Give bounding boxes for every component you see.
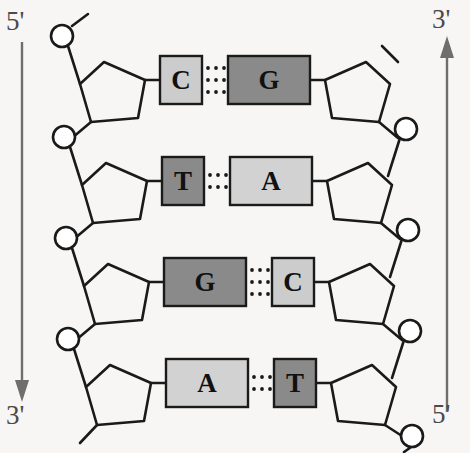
base-letter-right-2: A: [261, 166, 281, 196]
left-3prime-free-end: [80, 425, 97, 443]
right-3prime-free-end: [382, 46, 398, 62]
right-strand-backbone: [310, 46, 414, 452]
label-5-prime-left: 5': [6, 6, 24, 37]
phosphate-left-3: [55, 227, 77, 249]
left-phosphate-group: [51, 25, 79, 350]
base-letter-left-4: A: [197, 368, 217, 398]
phosphate-right-4: [401, 425, 423, 447]
label-3-prime-right: 3': [432, 4, 450, 35]
base-letter-right-1: G: [258, 65, 279, 95]
base-letter-right-3: C: [283, 267, 303, 297]
label-5-prime-right: 5': [432, 399, 450, 430]
label-3-prime-left: 3': [6, 400, 24, 431]
right-phosphate-group: [395, 118, 423, 447]
base-letter-right-4: T: [286, 368, 304, 398]
phosphate-left-4: [57, 328, 79, 350]
left-sugar-4: [86, 365, 151, 425]
base-letter-left-3: G: [194, 267, 215, 297]
left-strand-direction-arrow: [15, 42, 29, 402]
base-pair-row-2: T A: [162, 157, 312, 205]
phosphate-right-3: [399, 320, 421, 342]
left-5prime-free-end: [72, 14, 88, 26]
phosphate-right-2: [397, 219, 419, 241]
right-strand-direction-arrow: [440, 36, 454, 412]
left-strand-backbone: [68, 14, 166, 443]
right-sugar-4: [331, 365, 396, 425]
right-sugar-3: [329, 264, 394, 324]
right-sugar-2: [327, 163, 392, 223]
phosphate-left-1: [51, 25, 73, 47]
base-letter-left-1: C: [171, 65, 191, 95]
left-sugar-2: [82, 163, 147, 223]
right-sugar-1: [325, 62, 390, 122]
dna-diagram: C G T A: [0, 0, 470, 453]
phosphate-right-1: [395, 118, 417, 140]
left-sugar-1: [80, 62, 145, 122]
base-pair-row-4: A T: [166, 359, 316, 407]
base-pair-row-3: G C: [164, 258, 314, 306]
base-letter-left-2: T: [174, 166, 192, 196]
left-sugar-3: [84, 264, 149, 324]
dna-structure-svg: C G T A: [0, 0, 470, 453]
phosphate-left-2: [53, 126, 75, 148]
base-pair-row-1: C G: [160, 56, 310, 104]
